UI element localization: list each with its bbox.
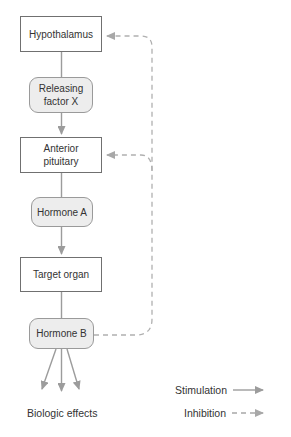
- node-hormone-b: Hormone B: [29, 318, 94, 349]
- stimulation-arrow-hormone-b-effects-left: [42, 349, 56, 389]
- hormone-feedback-diagram: Hypothalamus Releasing factor X Anterior…: [0, 0, 291, 437]
- stimulation-arrow-hormone-b-effects-right: [67, 349, 79, 389]
- node-hormone-a: Hormone A: [31, 197, 93, 227]
- node-target-organ: Target organ: [20, 257, 102, 292]
- node-hypothalamus-label: Hypothalamus: [29, 28, 93, 41]
- inhibition-arrow-hormone-b-to-anterior: [107, 155, 152, 171]
- node-hormone-b-label: Hormone B: [36, 327, 87, 340]
- node-anterior-pituitary: Anterior pituitary: [20, 137, 102, 173]
- node-releasing-factor-x-label: Releasing factor X: [36, 82, 86, 108]
- inhibition-arrow-hormone-b-to-hypothalamus: [94, 36, 152, 335]
- legend-stimulation-label: Stimulation: [160, 384, 227, 396]
- node-anterior-pituitary-label: Anterior pituitary: [36, 142, 86, 168]
- node-hypothalamus: Hypothalamus: [20, 16, 102, 52]
- biologic-effects-label: Biologic effects: [27, 407, 97, 419]
- legend-inhibition-label: Inhibition: [160, 407, 226, 419]
- node-hormone-a-label: Hormone A: [37, 206, 87, 219]
- node-releasing-factor-x: Releasing factor X: [29, 77, 93, 113]
- node-target-organ-label: Target organ: [33, 268, 89, 281]
